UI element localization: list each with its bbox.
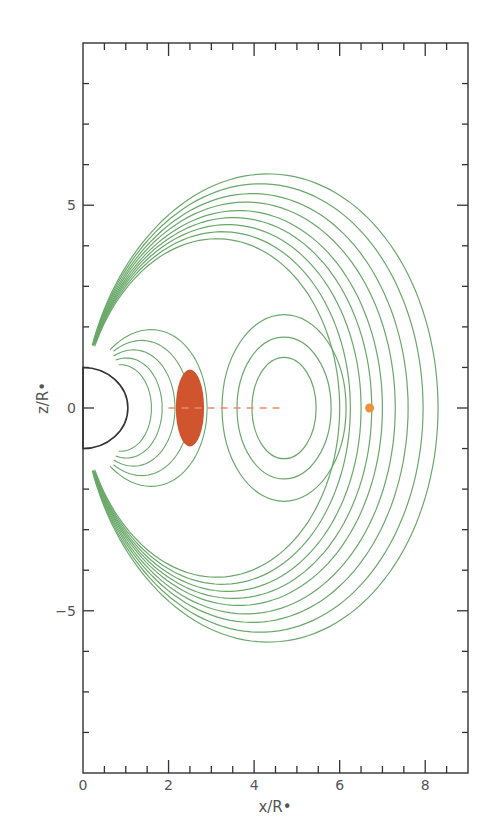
field-line (95, 239, 340, 577)
x-tick-label: 6 (335, 777, 344, 793)
x-axis-label: x/R• (258, 798, 291, 816)
orbiting-dot (365, 404, 374, 413)
y-tick-labels: −505 (55, 197, 76, 619)
y-axis-label: z/R• (34, 382, 52, 414)
y-tick-label: 0 (67, 400, 76, 416)
x-tick-labels: 02468 (79, 777, 430, 793)
x-tick-label: 0 (79, 777, 88, 793)
y-tick-label: 5 (67, 197, 76, 213)
y-tick-label: −5 (55, 603, 76, 619)
field-line-chart: 02468 −505 x/R• z/R• (0, 0, 494, 838)
field-line (96, 225, 361, 592)
x-tick-label: 2 (164, 777, 173, 793)
x-tick-label: 8 (421, 777, 430, 793)
x-tick-label: 4 (250, 777, 259, 793)
